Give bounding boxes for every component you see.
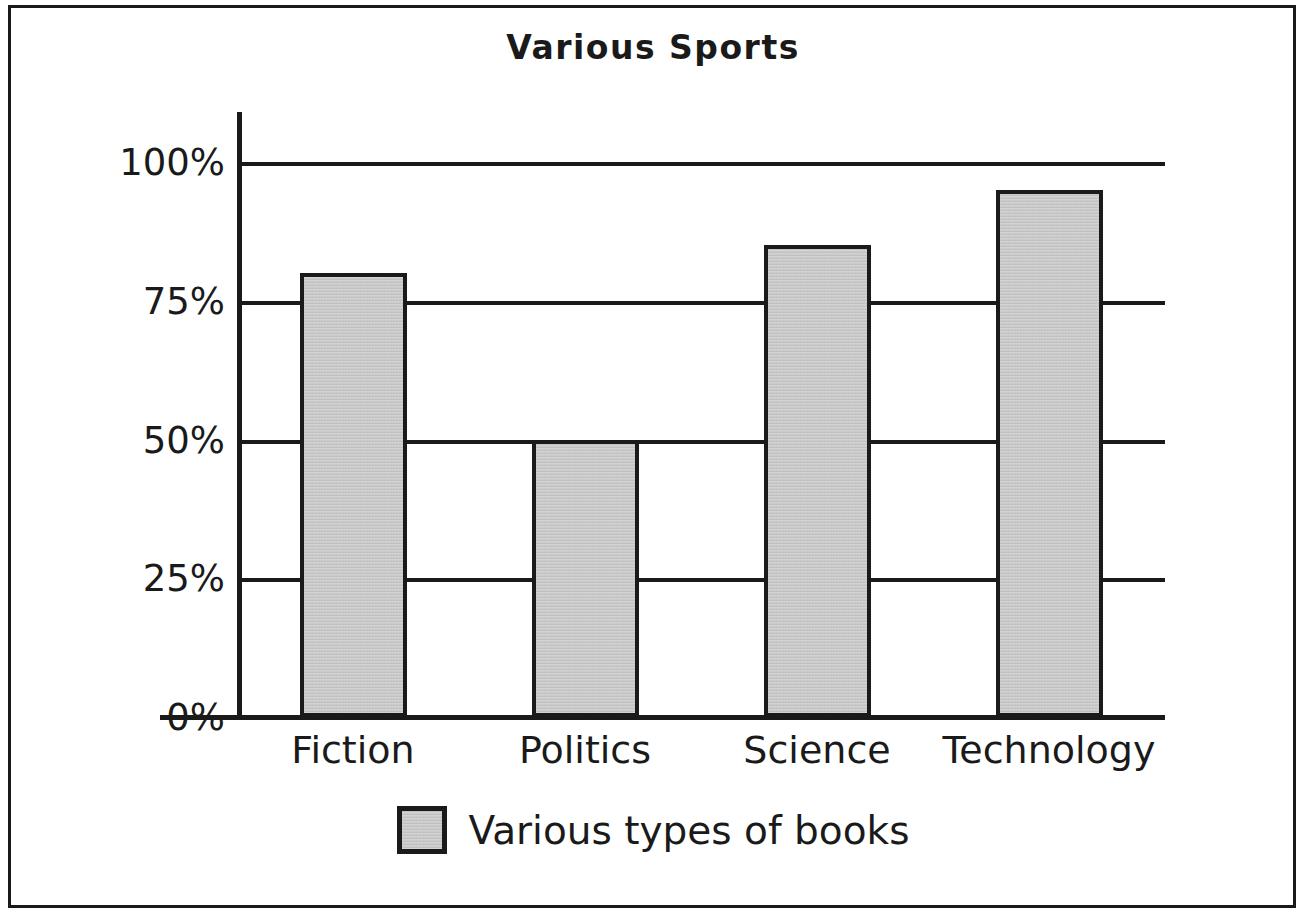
x-axis-line <box>160 715 1165 720</box>
chart-title: Various Sports <box>0 28 1306 67</box>
legend-swatch-icon <box>397 806 447 854</box>
bar-fiction[interactable] <box>300 273 407 717</box>
plot-area <box>237 162 1165 717</box>
category-label-technology: Technology <box>933 728 1165 772</box>
chart-root: Various Sports 0%25%50%75%100% FictionPo… <box>0 0 1306 912</box>
bar-science[interactable] <box>764 245 871 717</box>
bar-politics[interactable] <box>532 440 639 718</box>
y-tick-label: 50% <box>143 418 225 461</box>
y-axis-line <box>237 112 242 719</box>
y-tick-label: 100% <box>119 141 225 184</box>
bar-technology[interactable] <box>996 190 1103 717</box>
gridline-100 <box>237 162 1165 166</box>
chart-legend: Various types of books <box>0 806 1306 854</box>
legend-item[interactable]: Various types of books <box>397 806 910 854</box>
category-label-science: Science <box>701 728 933 772</box>
y-tick-label: 25% <box>143 557 225 600</box>
category-label-politics: Politics <box>469 728 701 772</box>
y-tick-label: 75% <box>143 279 225 322</box>
category-label-fiction: Fiction <box>237 728 469 772</box>
legend-label: Various types of books <box>469 808 910 853</box>
